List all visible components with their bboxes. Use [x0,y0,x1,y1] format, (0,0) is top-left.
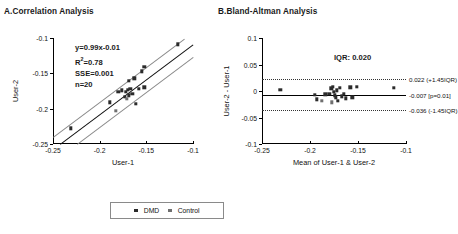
panel-a-title: A.Correlation Analysis [4,7,94,16]
regression-equation: y=0.99x-0.01 [75,42,120,54]
r-squared-value: R2=0.78 [75,54,120,68]
data-point [315,98,318,101]
legend-label-control: Control [178,207,200,214]
reference-line-0 [262,79,406,80]
x-axis-title-b: Mean of User-1 & User-2 [293,158,375,167]
x-tick-label-a-0: -0.25 [45,147,61,154]
y-tick-label-a-1: -0.2 [36,105,48,112]
x-tick-a-1 [100,141,101,144]
data-point [117,90,120,93]
panel-bland-altman-analysis: B.Bland-Altman Analysis IQR: 0.020 Mean … [214,0,428,200]
x-tick-label-a-3: -0.1 [187,147,199,154]
x-tick-a-0 [53,141,54,144]
x-tick-label-b-0: -0.25 [254,147,270,154]
x-tick-b-1 [310,141,311,144]
data-point [125,97,128,100]
reference-line-label-0: 0.022 (+1.45IQR) [409,76,457,83]
x-axis-line-a [53,143,193,144]
x-tick-b-2 [358,141,359,144]
data-point [114,109,117,112]
data-point [336,99,339,102]
data-point [140,70,143,73]
y-tick-a-3 [50,38,53,39]
y-tick-label-b-1: -0.05 [242,114,258,121]
reference-line-label-1: -0.007 [p=0.01] [409,91,451,98]
x-tick-a-3 [193,141,194,144]
y-axis-title-b: User-2 - User-1 [222,66,231,117]
data-point [342,92,345,95]
legend-swatch-dmd-icon [134,209,137,212]
x-tick-label-b-3: -0.1 [400,147,412,154]
x-tick-label-b-1: -0.2 [304,147,316,154]
y-tick-a-1 [50,109,53,110]
reference-line-label-2: -0.036 (-1.45IQR) [409,107,458,114]
x-tick-label-a-2: -0.15 [139,147,155,154]
data-point [120,89,123,92]
y-tick-b-3 [259,65,262,66]
plot-area-bland-altman: IQR: 0.020 Mean of User-1 & User-2 User-… [262,38,406,144]
data-point [327,92,330,95]
data-point [108,101,111,104]
y-tick-label-b-2: 0 [253,88,257,95]
legend-label-dmd: DMD [144,207,159,214]
y-tick-b-1 [259,118,262,119]
data-point [176,43,179,46]
y-tick-b-2 [259,91,262,92]
y-tick-label-b-3: 0.05 [244,61,257,68]
y-axis-line-a [53,38,54,144]
x-tick-a-2 [146,141,147,144]
data-point [338,86,341,89]
data-point [131,92,134,95]
data-point [69,127,72,130]
legend-swatch-control-icon [168,209,171,212]
x-tick-label-a-1: -0.2 [94,147,106,154]
data-point [392,86,395,89]
data-point [137,87,140,90]
panel-b-title: B.Bland-Altman Analysis [218,7,317,16]
y-tick-label-b-4: 0.1 [248,35,257,42]
data-point [330,100,333,103]
data-point [320,99,323,102]
data-point [143,86,146,89]
y-tick-b-0 [259,144,262,145]
legend-item-dmd: DMD [134,207,159,214]
y-tick-a-0 [50,144,53,145]
legend-item-control: Control [168,207,199,214]
data-point [279,88,282,91]
data-point [132,77,135,80]
iqr-annotation: IQR: 0.020 [334,53,371,62]
data-point [134,102,137,105]
plot-area-correlation: y=0.99x-0.01 R2=0.78 SSE=0.001 n=20 User… [53,38,193,144]
y-tick-label-a-2: -0.15 [33,70,49,77]
data-point [349,86,352,89]
x-tick-b-3 [406,141,407,144]
sample-size: n=20 [75,79,120,91]
data-point [143,65,146,68]
y-axis-title-a: User-2 [11,80,20,102]
reference-line-2 [262,110,406,111]
y-tick-a-2 [50,73,53,74]
y-tick-label-a-3: -0.1 [36,35,48,42]
x-axis-title-a: User-1 [112,158,134,167]
y-axis-line-b [262,38,263,144]
panel-correlation-analysis: A.Correlation Analysis y=0.99x-0.01 R2=0… [0,0,214,200]
data-point [344,97,347,100]
data-point [355,85,358,88]
regression-stats-block: y=0.99x-0.01 R2=0.78 SSE=0.001 n=20 [75,42,120,91]
x-tick-label-b-2: -0.15 [350,147,366,154]
figure-legend: DMD Control [110,202,224,219]
data-point [127,79,130,82]
x-axis-line-b [262,143,406,144]
sse-value: SSE=0.001 [75,68,120,80]
data-point [313,93,316,96]
y-tick-b-4 [259,38,262,39]
data-point [351,96,354,99]
x-tick-b-0 [262,141,263,144]
